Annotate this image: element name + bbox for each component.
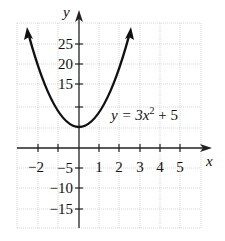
svg-text:25: 25 bbox=[58, 36, 73, 52]
x-tick-labels: −2 1 2 3 4 5 bbox=[28, 159, 184, 175]
x-axis-label: x bbox=[205, 153, 213, 169]
svg-text:4: 4 bbox=[156, 159, 164, 175]
svg-text:1: 1 bbox=[95, 159, 103, 175]
y-tick-labels: 25 20 15 −5 −10 −15 bbox=[50, 36, 73, 217]
svg-text:2: 2 bbox=[115, 159, 123, 175]
svg-text:−2: −2 bbox=[28, 159, 44, 175]
svg-text:20: 20 bbox=[58, 56, 73, 72]
equation-label: y = 3x2 + 5 bbox=[109, 105, 178, 123]
svg-text:15: 15 bbox=[58, 76, 73, 92]
grid bbox=[17, 23, 201, 228]
svg-text:−10: −10 bbox=[50, 180, 73, 196]
svg-text:−5: −5 bbox=[57, 160, 73, 176]
y-axis-label: y bbox=[61, 4, 70, 20]
svg-text:5: 5 bbox=[176, 159, 184, 175]
chart-svg: y x −2 1 2 3 4 5 25 20 15 −5 −10 −15 y =… bbox=[0, 0, 225, 241]
svg-text:−15: −15 bbox=[50, 201, 73, 217]
parabola-chart: y x −2 1 2 3 4 5 25 20 15 −5 −10 −15 y =… bbox=[0, 0, 225, 241]
svg-text:3: 3 bbox=[136, 159, 144, 175]
